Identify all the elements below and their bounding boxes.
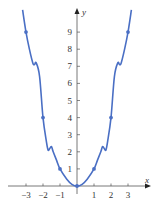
data-point [58, 167, 62, 171]
x-tick-label: 1 [92, 190, 97, 200]
y-tick-label: 5 [68, 96, 73, 106]
x-tick-label: 2 [109, 190, 114, 200]
data-point [92, 167, 96, 171]
axes: −3−2−1123123456789 [8, 8, 151, 200]
data-point [75, 184, 79, 188]
y-tick-label: 8 [68, 44, 73, 54]
data-point [24, 30, 28, 34]
chart: −3−2−1123123456789 x y [0, 0, 159, 214]
y-tick-label: 9 [68, 27, 73, 37]
data-point [41, 116, 45, 120]
y-tick-label: 1 [68, 164, 73, 174]
x-axis-label: x [144, 175, 149, 185]
data-point [126, 30, 130, 34]
y-tick-label: 4 [68, 113, 73, 123]
y-tick-label: 7 [68, 61, 73, 71]
y-axis-label: y [81, 7, 86, 17]
y-tick-label: 6 [68, 78, 73, 88]
data-point [109, 116, 113, 120]
y-tick-label: 2 [68, 147, 73, 157]
x-tick-label: −1 [55, 190, 65, 200]
x-tick-label: −3 [21, 190, 31, 200]
y-axis-arrow-icon [75, 8, 80, 14]
y-tick-label: 3 [68, 130, 73, 140]
x-tick-label: 3 [126, 190, 131, 200]
x-tick-label: −2 [38, 190, 48, 200]
